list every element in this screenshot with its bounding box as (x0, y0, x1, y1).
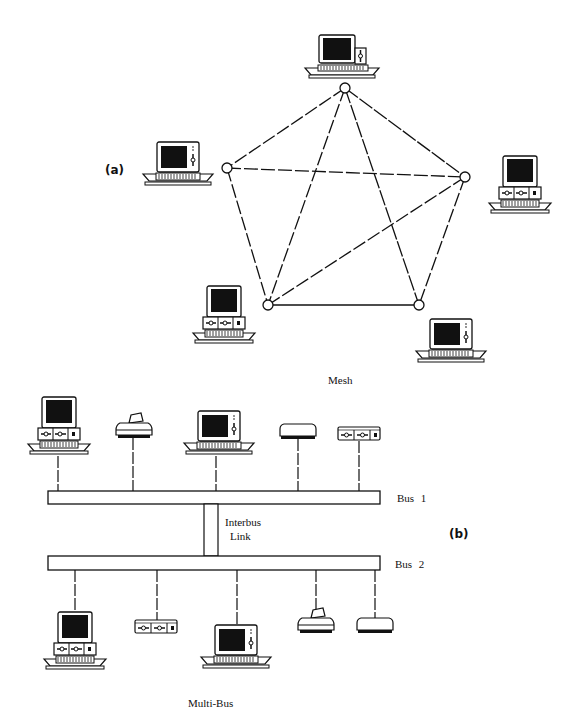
mesh-node-bottom-right (414, 300, 424, 310)
modem-icon (280, 424, 316, 439)
computer-integrated-icon (201, 625, 271, 668)
bus-1 (48, 491, 380, 504)
modem-icon (357, 618, 393, 633)
mesh-node-top (340, 83, 350, 93)
interbus-label-line2: Link (230, 530, 251, 542)
printer-icon (298, 608, 334, 633)
network-topology-diagram (0, 0, 586, 713)
computer-desktop-icon (489, 156, 551, 213)
printer-icon (116, 413, 152, 438)
mesh-node-right (460, 172, 470, 182)
computer-integrated-icon (143, 142, 213, 185)
computer-desktop-icon (44, 612, 106, 669)
computer-integrated-icon (184, 411, 254, 454)
mesh-node-left (222, 163, 232, 173)
interbus-label-line1: Interbus (225, 516, 261, 528)
mesh-links (227, 88, 465, 305)
bus1-label: Bus 1 (397, 492, 426, 504)
disk-drive-unit-icon (338, 427, 380, 440)
computer-integrated-icon (416, 319, 486, 362)
mesh-node-bottom-left (263, 300, 273, 310)
computer-tower-icon (305, 35, 379, 78)
part-a-label: (a) (105, 163, 124, 177)
bus2-connectors (75, 570, 375, 625)
interbus-link (204, 504, 218, 556)
part-b-label: (b) (449, 527, 469, 541)
mesh-caption: Mesh (328, 374, 352, 386)
bus2-label: Bus 2 (395, 558, 424, 570)
disk-drive-unit-icon (135, 620, 177, 633)
computer-desktop-icon (28, 397, 90, 454)
bus-2 (48, 556, 380, 570)
multibus-caption: Multi-Bus (188, 697, 233, 709)
computer-desktop-icon (193, 286, 255, 343)
